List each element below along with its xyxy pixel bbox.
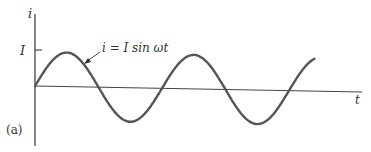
x-axis [35, 86, 362, 92]
amplitude-tick-label: I [19, 43, 26, 58]
y-axis-label: i [28, 6, 32, 21]
curve-annotation: i = I sin ωt [102, 41, 168, 55]
panel-label: (a) [6, 123, 23, 137]
sine-diagram: i I i = I sin ωt t (a) [0, 0, 371, 152]
x-axis-label: t [355, 93, 360, 107]
